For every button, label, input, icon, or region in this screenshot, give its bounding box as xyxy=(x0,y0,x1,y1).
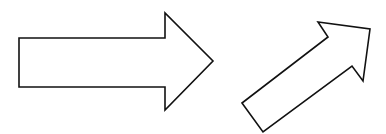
diagram-canvas xyxy=(0,0,386,134)
